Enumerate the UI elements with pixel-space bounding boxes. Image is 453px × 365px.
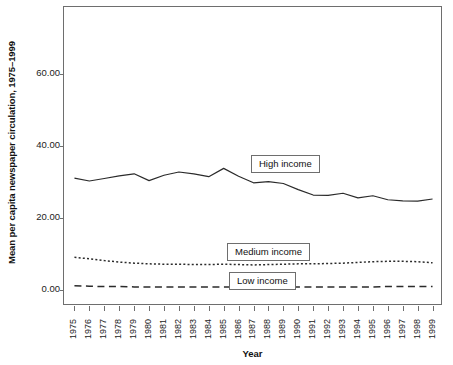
x-axis-tick-label: 1993 [336,311,348,347]
x-axis-tick-label: 1998 [411,311,423,347]
y-axis-tick-label: 60.00 [24,68,60,78]
x-axis-tick-label: 1999 [426,311,438,347]
x-axis-tick-label: 1987 [247,311,259,347]
y-axis-title-text: Mean per capita newspaper circulation, 1… [6,41,17,264]
x-axis-tick-label: 1990 [291,311,303,347]
x-axis-tick-label: 1995 [366,311,378,347]
y-axis-tick-mark [60,146,64,147]
y-axis-tick-mark [60,290,64,291]
y-axis-tick-mark [60,218,64,219]
series-label-medium-income: Medium income [227,243,310,261]
x-axis-tick-label: 1984 [202,311,214,347]
x-axis-tick-label: 1978 [112,311,124,347]
x-axis-tick-label: 1979 [127,311,139,347]
x-axis-tick-label: 1977 [97,311,109,347]
x-axis-tick-label: 1991 [306,311,318,347]
x-axis-tick-label: 1988 [261,311,273,347]
x-axis-tick-label: 1992 [321,311,333,347]
y-axis-title: Mean per capita newspaper circulation, 1… [0,0,22,305]
series-label-low-income: Low income [229,272,296,290]
y-axis-tick-mark [60,74,64,75]
x-axis-tick-label: 1976 [82,311,94,347]
x-axis-tick-label: 1975 [67,311,79,347]
x-axis-tick-label: 1997 [396,311,408,347]
chart-figure: Mean per capita newspaper circulation, 1… [0,0,453,365]
x-axis-title: Year [63,348,442,359]
x-axis-tick-label: 1983 [187,311,199,347]
y-axis-tick-label: 20.00 [24,212,60,222]
y-axis-tick-labels: 0.0020.0040.0060.00 [20,0,60,365]
x-axis-tick-label: 1980 [142,311,154,347]
x-axis-tick-labels: 1975197619771978197919801981198219831984… [63,311,442,349]
x-axis-tick-label: 1994 [351,311,363,347]
x-axis-tick-label: 1996 [381,311,393,347]
series-line-high-income [74,168,432,201]
x-axis-tick-label: 1985 [217,311,229,347]
series-label-high-income: High income [251,155,320,173]
y-axis-tick-label: 0.00 [24,284,60,294]
x-axis-tick-label: 1986 [232,311,244,347]
y-axis-tick-label: 40.00 [24,140,60,150]
x-axis-tick-label: 1989 [276,311,288,347]
x-axis-tick-label: 1982 [172,311,184,347]
x-axis-tick-label: 1981 [157,311,169,347]
